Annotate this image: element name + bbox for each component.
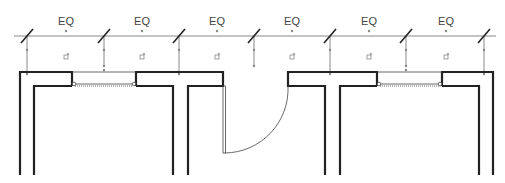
window-left	[72, 72, 136, 86]
window-right	[377, 72, 442, 86]
dimension-dots	[26, 30, 485, 75]
lock-icons	[64, 53, 449, 59]
walls	[20, 72, 493, 175]
door	[223, 86, 288, 153]
floor-plan-drawing	[0, 0, 505, 183]
